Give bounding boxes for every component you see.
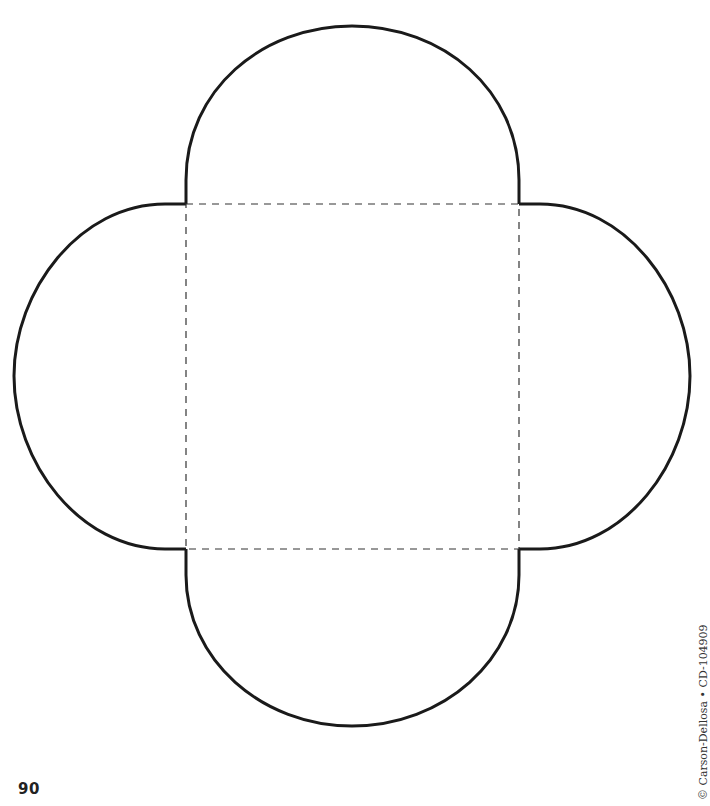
copyright-notice: © Carson-Dellosa • CD-104909 [697, 624, 710, 800]
top-flap-outline [186, 26, 519, 204]
bottom-flap-outline [186, 549, 519, 726]
fold-line-square [186, 204, 519, 549]
page-number: 90 [18, 780, 40, 798]
right-flap-outline [519, 204, 690, 549]
left-flap-outline [14, 204, 186, 549]
